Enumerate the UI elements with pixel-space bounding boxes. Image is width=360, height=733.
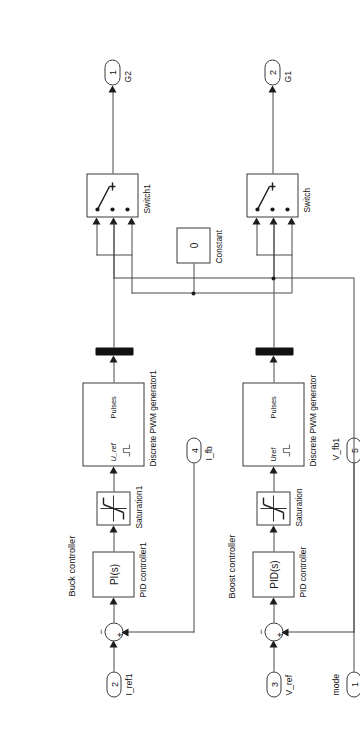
annotation-boost-controller: Boost controller bbox=[226, 534, 236, 598]
switch-icon bbox=[246, 173, 298, 217]
constant-label: Constant bbox=[213, 229, 223, 263]
wire-pid1-to-sat1 bbox=[113, 530, 114, 551]
pid-controller-expr: PID(s) bbox=[252, 551, 294, 597]
arrow-switch-in3 bbox=[287, 217, 295, 224]
arrow-switch-in1 bbox=[252, 217, 260, 224]
arrow-pwm-mux bbox=[269, 355, 277, 362]
discrete-pwm-generator-label: Discrete PWM generator bbox=[307, 374, 317, 466]
inport-v-fb1-label: V_fb1 bbox=[330, 438, 340, 460]
outport-g2[interactable]: 1 bbox=[104, 59, 120, 85]
arrow-switch-g1 bbox=[268, 85, 276, 92]
pwm1-output-pin-label: Pulses bbox=[108, 396, 117, 418]
saturation-icon bbox=[256, 491, 290, 525]
wire-pwm-to-mux bbox=[273, 360, 274, 382]
inport-i-fb[interactable]: 4 bbox=[186, 437, 201, 463]
inport-mode[interactable]: 1 bbox=[346, 671, 360, 697]
wire-pid-to-sat bbox=[273, 530, 274, 551]
constant-value: 0 bbox=[176, 227, 210, 263]
wire-mode-run bbox=[353, 278, 354, 671]
junction-mode bbox=[271, 276, 275, 280]
wire-vref-to-sum bbox=[273, 645, 274, 671]
wire-sat-to-pwm bbox=[273, 471, 274, 491]
pid-controller1-label: PID controller1 bbox=[137, 542, 147, 597]
junction-constant bbox=[191, 291, 195, 295]
sum-boost-minus: − bbox=[256, 629, 265, 634]
wire-iref1-to-sum bbox=[113, 645, 114, 671]
arrow-pid-sat bbox=[269, 525, 277, 532]
demux-buck-block[interactable] bbox=[95, 347, 133, 355]
wire-switch1-to-g2 bbox=[112, 90, 113, 173]
saturation1-icon bbox=[96, 491, 130, 525]
wire-sat1-to-pwm1 bbox=[113, 471, 114, 491]
switch1-icon bbox=[86, 173, 138, 217]
inport-v-ref[interactable]: 3 bbox=[266, 671, 281, 697]
arrow-sat1-pwm1 bbox=[109, 466, 117, 473]
diagram-canvas[interactable]: 2 I_ref1 + − PI(s) PID controller1 Satur… bbox=[0, 0, 360, 733]
wire-ifb-vertical bbox=[123, 631, 194, 632]
wire-vfb1-vertical bbox=[283, 631, 354, 632]
wire-mode-riser bbox=[113, 277, 354, 278]
outport-g1[interactable]: 2 bbox=[264, 59, 280, 85]
pwm1-glyph-icon bbox=[120, 441, 132, 457]
arrow-pid1-sat1 bbox=[109, 525, 117, 532]
wire-mode-to-switch1 bbox=[113, 222, 114, 278]
inport-mode-label: mode bbox=[330, 674, 340, 696]
pid-controller1-expr: PI(s) bbox=[92, 551, 134, 597]
demux-boost-block[interactable] bbox=[255, 347, 293, 355]
pwm-glyph-icon bbox=[280, 441, 292, 457]
wire-switch-in3 bbox=[291, 222, 292, 255]
arrow-sum-pid1 bbox=[109, 597, 117, 604]
inport-v-ref-label: V_ref bbox=[283, 674, 293, 695]
arrow-switch1-in3 bbox=[127, 217, 135, 224]
wire-constant-down bbox=[193, 292, 291, 293]
arrow-vfb1-sum bbox=[281, 628, 288, 636]
wire-mode-to-switch bbox=[273, 222, 274, 278]
arrow-pwm1-mux1 bbox=[109, 355, 117, 362]
wire-pwm1-to-mux1 bbox=[113, 360, 114, 382]
wire-switch-in1 bbox=[256, 222, 257, 255]
switch1-label: Switch1 bbox=[141, 184, 151, 213]
arrow-sat-pwm bbox=[269, 466, 277, 473]
switch-label: Switch bbox=[301, 187, 311, 212]
pid-controller-label: PID controller bbox=[297, 546, 307, 597]
wire-constant-to-switch-ctrl bbox=[291, 255, 292, 293]
inport-i-fb-label: I_fb bbox=[203, 446, 213, 460]
wire-constant-to-switch1-ctrl bbox=[131, 255, 132, 293]
sum-buck-minus: − bbox=[96, 629, 105, 634]
pwm-output-pin-label: Pulses bbox=[268, 396, 277, 418]
wire-ifb-horizontal bbox=[193, 463, 194, 632]
arrow-switch1-g2 bbox=[108, 85, 116, 92]
pwm1-input-pin-label: U_ref bbox=[108, 443, 117, 461]
inport-i-ref1-label: I_ref1 bbox=[123, 673, 133, 695]
wire-constant-up bbox=[131, 292, 194, 293]
wire-sum-to-pid bbox=[273, 602, 274, 622]
saturation-label: Saturation bbox=[293, 488, 303, 526]
diagram-viewport[interactable]: 2 I_ref1 + − PI(s) PID controller1 Satur… bbox=[0, 0, 360, 733]
arrow-switch1-in1 bbox=[92, 217, 100, 224]
discrete-pwm-generator1-label: Discrete PWM generator1 bbox=[147, 370, 157, 466]
outport-g1-label: G1 bbox=[282, 71, 292, 82]
arrow-sum-pid bbox=[269, 597, 277, 604]
wire-switch-to-g1 bbox=[272, 90, 273, 173]
arrow-ifb-sum bbox=[121, 628, 128, 636]
wire-switch1-in1 bbox=[96, 222, 97, 255]
wire-sum-to-pid1 bbox=[113, 602, 114, 622]
inport-i-ref1[interactable]: 2 bbox=[106, 671, 121, 697]
wire-switch1-in3 bbox=[131, 222, 132, 255]
outport-g2-label: G2 bbox=[122, 71, 132, 82]
pwm-input-pin-label: Uref bbox=[268, 447, 277, 461]
saturation1-label: Saturation1 bbox=[133, 485, 143, 528]
annotation-buck-controller: Buck controller bbox=[66, 535, 76, 596]
